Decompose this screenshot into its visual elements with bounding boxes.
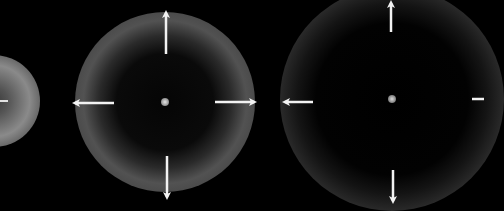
arrows-layer (0, 0, 484, 207)
expanding-ring-diagram (0, 0, 484, 207)
